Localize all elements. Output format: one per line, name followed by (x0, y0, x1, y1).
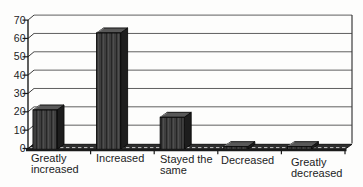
left-wall-connector-30 (28, 88, 34, 93)
y-tick-label-50: 50 (14, 50, 26, 62)
bar-decreased (224, 142, 255, 150)
left-wall-connector-50 (28, 52, 34, 57)
scanned-chart-page: 010203040506070GreatlyincreasedIncreased… (0, 0, 363, 187)
y-tick-label-20: 20 (14, 105, 26, 117)
bar-increased (97, 28, 128, 149)
bar-front-face (33, 110, 57, 149)
bar-stayed-the-same (160, 112, 191, 149)
x-axis-labels: GreatlyincreasedIncreasedStayed thesameD… (31, 152, 342, 179)
y-tick-label-10: 10 (14, 124, 26, 136)
x-label-stayed-the-same: Stayed thesame (160, 153, 213, 176)
y-tick-label-70: 70 (14, 14, 26, 26)
survey-change-bar-chart: 010203040506070GreatlyincreasedIncreased… (0, 0, 363, 187)
bar-greatly-decreased (287, 142, 318, 150)
bar-side-face (57, 105, 64, 149)
y-tick-label-60: 60 (14, 32, 26, 44)
bar-front-face (160, 117, 184, 149)
y-tick-label-0: 0 (20, 142, 26, 154)
x-label-decreased: Decreased (221, 154, 274, 166)
x-label-increased: Increased (96, 152, 144, 164)
bar-side-face (184, 112, 191, 149)
y-tick-label-40: 40 (14, 69, 26, 81)
bar-side-face (121, 28, 128, 149)
bar-greatly-increased (33, 105, 64, 149)
left-wall-connector-70 (28, 15, 34, 20)
x-label-greatly-decreased: Greatlydecreased (291, 156, 342, 179)
left-wall-connector-60 (28, 33, 34, 38)
left-wall-connector-40 (28, 70, 34, 75)
x-label-greatly-increased: Greatlyincreased (31, 152, 79, 175)
y-axis-labels: 010203040506070 (14, 14, 26, 154)
bar-front-face (97, 33, 121, 149)
y-tick-label-30: 30 (14, 87, 26, 99)
